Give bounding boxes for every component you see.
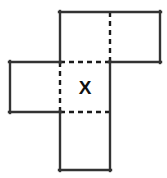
face-left-square xyxy=(10,62,60,112)
face-bottom-square xyxy=(60,112,110,170)
face-top-left-square xyxy=(60,12,110,62)
face-top-right-square xyxy=(110,12,160,62)
cube-net-figure: X xyxy=(0,0,167,178)
cube-net-svg xyxy=(0,0,167,178)
face-center-square xyxy=(60,62,110,112)
